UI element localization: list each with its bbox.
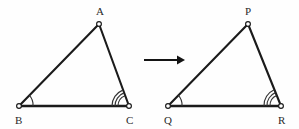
vertex-dot-p — [246, 22, 251, 27]
triangle-pqr-side-pq — [168, 24, 248, 106]
angle-arc-b-1 — [29, 95, 33, 106]
angle-arc-r-1 — [270, 96, 277, 107]
arrow-head-icon — [177, 56, 185, 65]
vertex-dot-a — [97, 22, 102, 27]
triangle-pqr-side-pr — [248, 24, 281, 106]
angle-arc-c-1 — [118, 96, 125, 106]
angle-mark-b — [29, 95, 33, 106]
vertex-dot-r — [279, 104, 284, 109]
angle-arc-q-1 — [178, 95, 182, 106]
vertex-label-c: C — [126, 114, 134, 126]
triangle-pqr: P Q R — [164, 5, 286, 126]
vertex-label-b: B — [15, 114, 23, 126]
triangle-abc-side-ab — [19, 24, 99, 106]
figure-canvas: A B C P — [0, 0, 299, 129]
triangle-abc-side-ac — [99, 24, 129, 106]
angle-mark-q — [178, 95, 182, 106]
triangle-abc: A B C — [15, 5, 134, 126]
vertex-dot-b — [17, 104, 22, 109]
vertex-label-a: A — [96, 5, 104, 17]
vertex-dot-q — [166, 104, 171, 109]
transformation-arrow — [144, 56, 185, 65]
vertex-label-p: P — [245, 5, 251, 17]
vertex-dot-c — [127, 104, 132, 109]
vertex-label-q: Q — [164, 114, 172, 126]
geometry-figure: A B C P — [0, 0, 299, 129]
vertex-label-r: R — [278, 114, 286, 126]
